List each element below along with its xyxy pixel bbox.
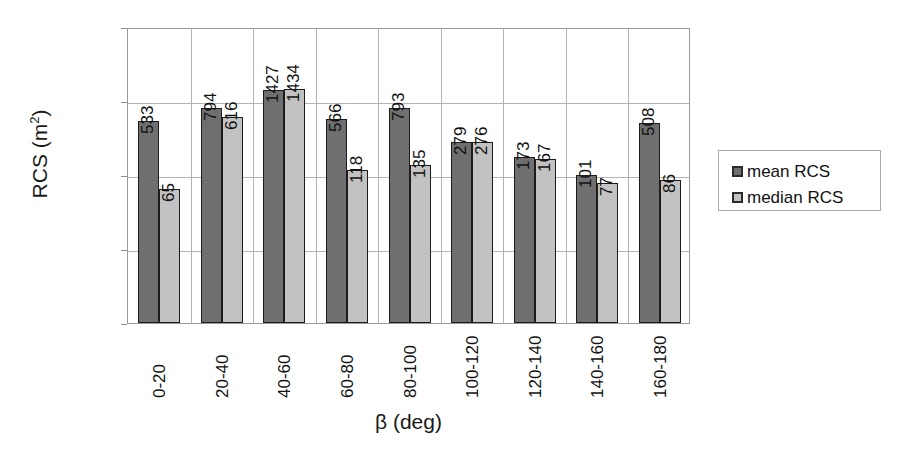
bar-mean-160-180 — [639, 123, 660, 323]
gridline-vertical — [441, 29, 442, 323]
bar-median-40-60 — [284, 89, 305, 323]
bar-value-label: 533 — [139, 106, 156, 134]
gridline-vertical — [191, 29, 192, 323]
y-axis-tick-mark — [121, 324, 127, 325]
bar-value-label: 279 — [452, 127, 469, 155]
bar-median-120-140 — [535, 159, 556, 323]
x-axis-tick-label-40-60: 40-60 — [276, 355, 293, 398]
bar-mean-120-140 — [514, 157, 535, 323]
x-axis-tick-label-60-80: 60-80 — [339, 355, 356, 398]
bar-mean-140-160 — [576, 175, 597, 323]
bar-value-label: 77 — [598, 177, 615, 196]
gridline-vertical — [628, 29, 629, 323]
bar-value-label: 167 — [536, 143, 553, 171]
x-axis-tick-label-140-160: 140-160 — [589, 336, 606, 398]
y-axis-tick-labels: 100001000100101 — [0, 0, 119, 453]
bar-mean-0-20 — [138, 121, 159, 323]
bar-mean-100-120 — [451, 142, 472, 323]
bar-value-label: 276 — [473, 127, 490, 155]
plot-area: 5336579461614271434566118793135279276173… — [127, 28, 690, 324]
x-axis-tick-label-160-180: 160-180 — [652, 336, 669, 398]
legend-swatch-median-icon — [732, 192, 743, 203]
gridline-vertical — [503, 29, 504, 323]
legend-item-mean[interactable]: mean RCS — [732, 161, 830, 181]
x-axis-tick-label-20-40: 20-40 — [214, 355, 231, 398]
x-axis-tick-label-80-100: 80-100 — [402, 345, 419, 398]
bar-value-label: 793 — [390, 93, 407, 121]
bar-median-160-180 — [660, 180, 681, 323]
bar-value-label: 118 — [348, 156, 365, 183]
bar-mean-60-80 — [326, 119, 347, 323]
bar-value-label: 1427 — [264, 65, 281, 103]
x-axis-title: β (deg) — [127, 410, 690, 434]
bar-value-label: 508 — [640, 107, 657, 135]
bar-mean-80-100 — [389, 108, 410, 323]
bar-value-label: 173 — [515, 142, 532, 170]
bar-median-140-160 — [597, 183, 618, 323]
bar-median-60-80 — [347, 170, 368, 323]
bar-median-80-100 — [410, 165, 431, 323]
x-axis-tick-label-100-120: 100-120 — [464, 336, 481, 398]
legend-label: mean RCS — [747, 163, 830, 180]
x-axis-tick-label-120-140: 120-140 — [527, 336, 544, 398]
bar-value-label: 65 — [160, 183, 177, 202]
legend-swatch-mean-icon — [732, 166, 743, 177]
bar-median-100-120 — [472, 142, 493, 323]
bar-value-label: 1434 — [285, 65, 302, 103]
bar-value-label: 86 — [661, 174, 678, 193]
bar-mean-40-60 — [263, 90, 284, 323]
bar-value-label: 566 — [327, 104, 344, 132]
bar-median-20-40 — [222, 117, 243, 323]
bar-value-label: 135 — [411, 150, 428, 178]
bar-value-label: 616 — [223, 101, 240, 129]
gridline-vertical — [253, 29, 254, 323]
bar-value-label: 101 — [577, 159, 594, 187]
bar-mean-20-40 — [201, 108, 222, 323]
legend-label: median RCS — [747, 189, 843, 206]
bar-median-0-20 — [159, 189, 180, 323]
gridline-vertical — [566, 29, 567, 323]
x-axis-tick-label-0-20: 0-20 — [151, 364, 168, 398]
gridline-vertical — [316, 29, 317, 323]
bar-value-label: 794 — [202, 93, 219, 121]
gridline-vertical — [378, 29, 379, 323]
chart-legend: mean RCSmedian RCS — [718, 150, 881, 211]
chart-figure: RCS (m2) 100001000100101 533657946161427… — [0, 0, 910, 453]
legend-item-median[interactable]: median RCS — [732, 187, 843, 207]
